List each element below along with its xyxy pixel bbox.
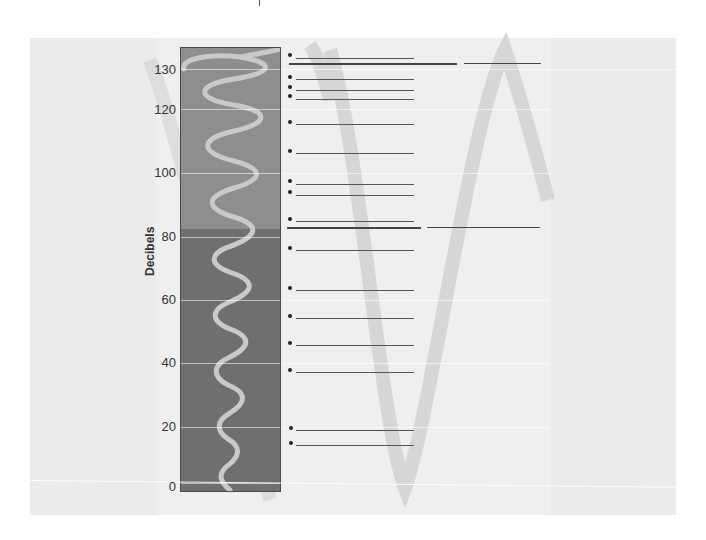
bullet-icon — [288, 246, 292, 250]
answer-blank-7[interactable] — [296, 184, 414, 185]
tick-label-100: 100 — [136, 166, 176, 180]
bullet-icon — [288, 368, 292, 372]
answer-blank-5[interactable] — [296, 124, 414, 125]
bullet-icon — [288, 217, 292, 221]
panel-gridline-60 — [281, 300, 551, 301]
bullet-icon — [288, 53, 292, 57]
bullet-icon — [288, 190, 292, 194]
answer-blank-3[interactable] — [296, 90, 414, 91]
threshold-label-blank-85[interactable] — [427, 227, 540, 228]
answer-blank-6[interactable] — [296, 153, 414, 154]
answer-blank-8[interactable] — [296, 195, 414, 196]
tick-label-0: 0 — [136, 480, 176, 494]
answer-blank-14[interactable] — [296, 372, 414, 373]
bullet-icon — [289, 441, 293, 445]
bullet-icon — [288, 120, 292, 124]
bullet-icon — [288, 94, 292, 98]
tick-label-40: 40 — [136, 356, 176, 370]
answer-blank-9[interactable] — [296, 221, 414, 222]
panel-gridline-40 — [281, 363, 551, 364]
bullet-icon — [288, 314, 292, 318]
threshold-line-85 — [287, 227, 421, 229]
panel-gridline-20 — [281, 427, 551, 428]
bullet-icon — [289, 426, 293, 430]
panel-gridline-100 — [281, 173, 551, 174]
tick-label-60: 60 — [136, 293, 176, 307]
bullet-icon — [288, 286, 292, 290]
tick-label-130: 130 — [136, 63, 176, 77]
answer-blank-1[interactable] — [296, 58, 414, 59]
answer-blank-10[interactable] — [296, 250, 414, 251]
tick-label-20: 20 — [136, 420, 176, 434]
bullet-icon — [288, 341, 292, 345]
bullet-icon — [288, 149, 292, 153]
bullet-icon — [288, 75, 292, 79]
decibel-scale-column — [180, 47, 281, 492]
answer-blank-2[interactable] — [296, 79, 414, 80]
top-tick-mark — [259, 0, 260, 6]
answer-blank-12[interactable] — [296, 318, 414, 319]
answer-blank-4[interactable] — [296, 99, 414, 100]
threshold-line-130 — [289, 63, 457, 65]
column-border — [180, 47, 281, 492]
panel-gridline-130 — [281, 69, 676, 70]
threshold-label-blank-130[interactable] — [464, 63, 541, 64]
answer-blank-16[interactable] — [296, 445, 414, 446]
answer-blank-13[interactable] — [296, 345, 414, 346]
bullet-icon — [288, 179, 292, 183]
answer-blank-11[interactable] — [296, 290, 414, 291]
axis-title: Decibels — [143, 227, 157, 276]
panel-gridline-120 — [281, 109, 551, 110]
answer-blank-15[interactable] — [296, 430, 414, 431]
tick-label-120: 120 — [136, 103, 176, 117]
bullet-icon — [288, 85, 292, 89]
